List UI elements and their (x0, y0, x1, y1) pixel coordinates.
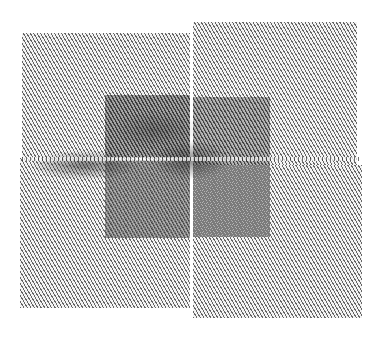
dark-streak-left (30, 150, 140, 180)
horizontal-seam (22, 157, 362, 161)
dark-streak-upper (110, 110, 200, 150)
artwork: Line-hatched abstract artwork: four diag… (0, 0, 387, 339)
